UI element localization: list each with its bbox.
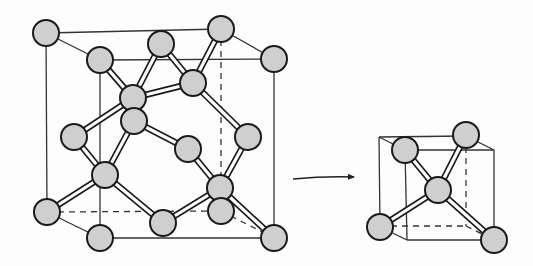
- tetrahedral-sub-cell: [367, 122, 507, 253]
- atom-corner: [87, 47, 113, 73]
- atom-vertex: [453, 122, 479, 148]
- atom-face-center: [61, 124, 87, 150]
- atom-interior: [92, 162, 118, 188]
- atom-vertex: [392, 137, 418, 163]
- atom-face-center: [235, 124, 261, 150]
- atom-face-center: [148, 31, 174, 57]
- atom-corner: [33, 20, 59, 46]
- atom-face-center: [121, 108, 147, 134]
- atom-corner: [87, 225, 113, 251]
- atom-corner: [34, 199, 60, 225]
- atom-vertex: [481, 227, 507, 253]
- atom-corner: [208, 16, 234, 42]
- cube-edge: [46, 33, 47, 212]
- atom-corner: [261, 46, 287, 72]
- atom-vertex: [367, 214, 393, 240]
- cube-edge: [46, 29, 221, 33]
- arrow-icon: [293, 177, 354, 179]
- diamond-structure-diagram: [0, 0, 533, 266]
- diagram-canvas: [0, 0, 533, 266]
- diamond-unit-cell: [33, 16, 287, 251]
- atom-corner: [208, 198, 234, 224]
- atom-face-center: [150, 210, 176, 236]
- atom-face-center: [175, 136, 201, 162]
- atom-center: [425, 177, 451, 203]
- atom-corner: [261, 225, 287, 251]
- hidden-edge: [47, 211, 221, 212]
- atom-interior: [180, 70, 206, 96]
- cube-edge: [100, 59, 274, 60]
